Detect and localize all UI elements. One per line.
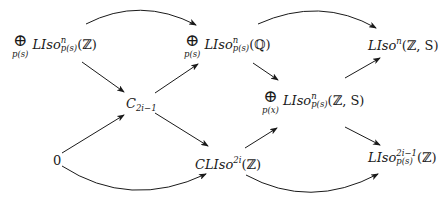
node-cliso-2i-z: CLIso2i(ℤ) <box>195 156 261 171</box>
arrow-n2-n5 <box>253 63 278 80</box>
arrow-n2-n3 <box>258 11 376 28</box>
direct-sum-operator: ⊕ p(s) <box>184 32 200 59</box>
arrow-n4-n2 <box>155 64 198 93</box>
node-liso-z-s: LIson(ℤ, S) <box>368 37 439 52</box>
direct-sum-operator: ⊕ p(s) <box>12 32 28 59</box>
arrow-n5-n8 <box>345 127 380 145</box>
arrow-n1-n4 <box>82 62 124 92</box>
arrow-n4-n7 <box>155 113 208 146</box>
node-liso-2i-minus-1-z: LIso2i−1p(s)(ℤ) <box>368 150 437 166</box>
node-zero: 0 <box>53 154 61 167</box>
oplus-icon: ⊕ <box>12 32 28 49</box>
arrows-layer <box>0 0 443 203</box>
node-direct-sum-liso-q: ⊕ p(s) LIsonp(s)(ℚ) <box>184 32 271 59</box>
node-c-2i-minus-1: C2i−1 <box>126 97 157 113</box>
node-direct-sum-liso-z: ⊕ p(s) LIsonp(s)(ℤ) <box>12 32 97 59</box>
direct-sum-operator: ⊕ p(x) <box>262 88 279 115</box>
node-direct-sum-liso-z-s: ⊕ p(x) LIsonp(s)(ℤ, S) <box>262 88 364 115</box>
commutative-diagram: ⊕ p(s) LIsonp(s)(ℤ) ⊕ p(s) LIsonp(s)(ℚ) … <box>0 0 443 203</box>
oplus-icon: ⊕ <box>184 32 200 49</box>
arrow-n6-n7 <box>62 166 206 190</box>
arrow-n7-n5 <box>245 128 277 148</box>
arrow-n1-n2 <box>86 10 196 25</box>
arrow-n7-n8 <box>246 174 378 192</box>
arrow-n5-n3 <box>345 58 380 78</box>
oplus-icon: ⊕ <box>262 88 279 105</box>
arrow-n6-n4 <box>62 115 124 153</box>
